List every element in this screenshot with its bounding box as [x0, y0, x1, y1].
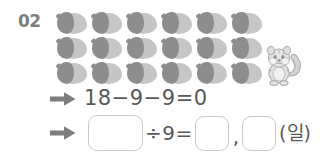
separator-comma: , [229, 127, 242, 147]
acorn-icon [161, 36, 196, 61]
acorn-icon [196, 36, 231, 61]
acorn-icon [56, 11, 91, 36]
chipmunk-icon [262, 46, 304, 86]
acorn-icon [56, 36, 91, 61]
divide-operator: ÷9= [143, 123, 195, 143]
right-arrow-icon [50, 90, 76, 108]
acorn-icon [161, 11, 196, 36]
unit-label: (일) [279, 124, 311, 143]
acorn-icon [91, 36, 126, 61]
acorn-icon [231, 11, 266, 36]
acorn-icon [161, 61, 196, 86]
acorn-row [56, 61, 266, 86]
acorn-row [56, 11, 266, 36]
acorn-icon [196, 61, 231, 86]
right-arrow-icon [50, 124, 76, 142]
acorn-icon [231, 61, 266, 86]
acorn-grid [56, 11, 266, 86]
acorn-icon [231, 36, 266, 61]
answer-blank-dividend[interactable] [88, 115, 143, 151]
equation-row-1: 18−9−9=0 [50, 88, 208, 109]
acorn-icon [126, 11, 161, 36]
acorn-icon [126, 36, 161, 61]
answer-blank-quotient[interactable] [195, 116, 229, 151]
acorn-icon [91, 11, 126, 36]
equation-row-2: ÷9= , (일) [50, 115, 311, 151]
acorn-icon [91, 61, 126, 86]
answer-blank-days[interactable] [242, 116, 276, 151]
acorn-icon [196, 11, 231, 36]
worksheet-problem: 02 [0, 0, 328, 160]
acorn-row [56, 36, 266, 61]
acorn-icon [56, 61, 91, 86]
problem-number: 02 [18, 13, 41, 30]
acorn-icon [126, 61, 161, 86]
equation-expression: 18−9−9=0 [84, 88, 208, 109]
